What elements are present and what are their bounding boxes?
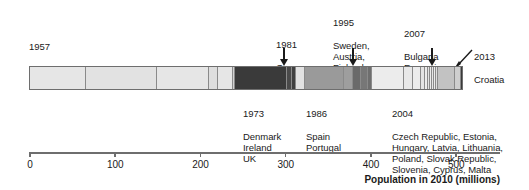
population-timeline-figure: 1957 France, West Germany, Italy, Belgiu… (0, 0, 529, 190)
x-axis-tick-label: 100 (107, 159, 124, 170)
bar-segment (157, 67, 209, 89)
annotation-1973: 1973 Denmark Ireland UK (243, 97, 281, 164)
bar-segment (438, 67, 455, 89)
annotation-1957-year: 1957 (29, 41, 50, 52)
annotation-1986-year: 1986 (306, 108, 327, 119)
x-axis-tick (200, 152, 202, 157)
annotation-2013-year: 2013 (474, 51, 495, 62)
x-axis-tick (114, 152, 116, 157)
bar-segment (372, 67, 404, 89)
x-axis-tick (285, 152, 287, 157)
annotation-2013-countries: Croatia (474, 74, 504, 85)
x-axis-tick (455, 152, 457, 157)
bar-segment (86, 67, 157, 89)
arrow-2007 (427, 48, 436, 66)
bar-segment (30, 67, 86, 89)
x-axis-line (29, 152, 500, 154)
bar-segment (413, 67, 421, 89)
x-axis-tick-label: 300 (277, 159, 294, 170)
annotation-2007: 2007 Bulgaria Romania (404, 17, 442, 73)
bar-segment (235, 67, 287, 89)
annotation-1973-year: 1973 (243, 108, 264, 119)
bar-segment (305, 67, 344, 89)
bar-segment (461, 67, 463, 89)
x-axis-tick-label: 0 (27, 159, 33, 170)
annotation-1986-countries: Spain Portugal (306, 131, 341, 153)
x-axis-tick-label: 400 (363, 159, 380, 170)
x-axis-tick-label: 500 (448, 159, 465, 170)
annotation-2013: 2013 Croatia (474, 40, 504, 85)
annotation-1995-year: 1995 (333, 17, 354, 28)
bar-segment (218, 67, 233, 89)
bar-segment (296, 67, 305, 89)
annotation-2004-year: 2004 (392, 108, 413, 119)
arrow-1995 (348, 48, 357, 66)
annotation-1973-countries: Denmark Ireland UK (243, 131, 281, 164)
x-axis-tick (370, 152, 372, 157)
population-stacked-bar (29, 66, 463, 90)
bar-segment (353, 67, 361, 89)
bar-segment (361, 67, 368, 89)
bar-segment (209, 67, 218, 89)
bar-segment (344, 67, 353, 89)
bar-segment (404, 67, 413, 89)
x-axis-tick (29, 152, 31, 157)
x-axis-tick-label: 200 (192, 159, 209, 170)
x-axis-title: Population in 2010 (millions) (364, 174, 500, 185)
annotation-2007-year: 2007 (404, 28, 425, 39)
arrow-1981 (279, 48, 288, 66)
annotation-1986: 1986 Spain Portugal (306, 97, 341, 153)
